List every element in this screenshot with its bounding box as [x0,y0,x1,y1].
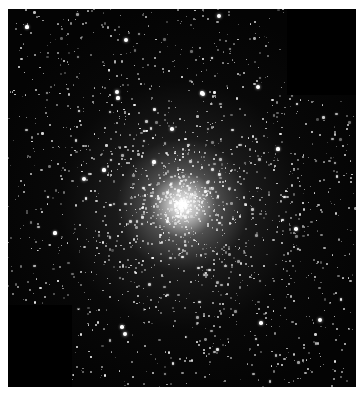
star [189,293,190,294]
star [189,205,191,207]
star [219,326,221,328]
star [230,308,232,310]
star [232,59,234,61]
star [85,145,87,147]
star [322,267,324,269]
star [310,221,312,223]
star [334,370,336,372]
star [13,90,15,92]
star [144,83,145,84]
star [25,9,27,11]
star [114,60,116,62]
star [251,265,253,267]
star [171,101,172,102]
star [153,212,155,214]
star [248,266,249,267]
star [151,99,152,100]
star [334,316,335,317]
star [174,220,176,222]
star [210,124,211,125]
star [163,145,164,146]
star [30,221,33,224]
star [77,11,78,12]
star [47,52,48,53]
star [213,158,215,160]
star [327,142,328,143]
star [129,220,132,223]
star [141,271,143,273]
bottom-left-dark-patch [8,305,72,387]
star [289,98,291,100]
star [205,257,206,258]
star [192,47,193,48]
star [131,361,133,363]
star [47,196,50,199]
star [274,165,276,167]
star [107,163,108,164]
star [129,134,131,136]
star [36,278,37,279]
star [279,354,281,356]
star [234,62,235,63]
star [257,155,259,157]
star [237,260,240,263]
star [196,341,198,343]
star [197,267,200,270]
star [83,108,84,109]
star [152,137,154,139]
star [14,94,16,96]
star [35,123,36,124]
star [97,321,99,323]
star [181,226,183,228]
star [8,118,10,120]
star [135,241,137,243]
star [181,372,183,374]
star [34,165,35,166]
star [143,288,144,289]
star [77,186,78,187]
star [254,21,256,23]
star [184,244,186,246]
star [153,108,156,111]
star [151,323,152,324]
star [198,301,201,304]
star [174,161,175,162]
star [207,18,209,20]
star [180,212,182,214]
star [20,265,22,267]
star [61,245,62,246]
star [25,94,26,95]
star [18,195,19,196]
star [306,277,307,278]
star [229,48,231,50]
star [88,173,90,175]
star [338,215,339,216]
star [218,216,219,217]
star [67,88,69,90]
star-cluster-image [8,9,356,387]
star [225,244,227,246]
star [258,274,259,275]
star [222,181,224,183]
star [147,221,149,223]
star [17,286,19,288]
star [202,194,204,196]
star [87,307,89,309]
star [46,99,48,101]
star [252,300,253,301]
star [79,224,81,226]
star [210,247,212,249]
star [342,277,344,279]
star [114,29,116,31]
star [123,332,127,336]
star [249,350,250,351]
star [184,240,187,243]
star [54,84,56,86]
star [67,105,69,107]
star [198,243,200,245]
star [238,24,239,25]
star [130,265,131,266]
star [99,110,100,111]
star [22,96,23,97]
star [249,348,251,350]
